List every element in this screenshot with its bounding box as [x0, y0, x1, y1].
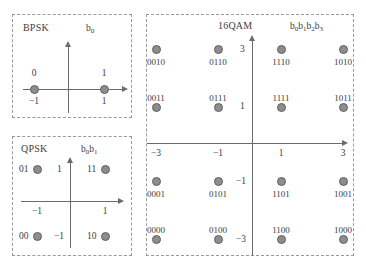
qam16-point-0110	[214, 45, 223, 54]
qam16-point-0111-symbol: 0111	[209, 94, 226, 103]
bpsk-bit-mapping-index: 0	[91, 27, 95, 35]
qam16-point-1100	[277, 235, 286, 244]
qam16-point-1000-symbol: 1000	[334, 226, 352, 235]
bpsk-constellation-panel: BPSK b0 0 −1 1 1	[12, 14, 132, 118]
qpsk-y-axis-arrow	[67, 157, 73, 163]
qam16-y-axis-arrow	[249, 35, 255, 41]
qpsk-x-tick-plus1: 1	[103, 207, 108, 217]
bpsk-point-minus1	[30, 85, 39, 94]
qam16-point-1111	[277, 103, 286, 112]
qam16-point-1001	[339, 177, 348, 186]
qpsk-x-tick-minus1: −1	[32, 207, 42, 217]
qam16-point-1011	[339, 103, 348, 112]
qam16-point-1100-symbol: 1100	[272, 226, 290, 235]
qam16-bit-mapping-index-3: 3	[320, 25, 324, 33]
qam16-point-0101-symbol: 0101	[209, 190, 227, 199]
qam16-point-1001-symbol: 1001	[334, 190, 352, 199]
bpsk-y-axis-arrow	[65, 41, 71, 47]
qam16-constellation-panel: 16QAM b0b1b2b3 −3 −1 1 3 3 1 −1 −3 0010 …	[146, 14, 354, 256]
qpsk-y-axis-line	[70, 163, 71, 248]
qam16-y-tick-plus3: 3	[240, 45, 245, 55]
bpsk-x-axis-arrow	[122, 86, 128, 92]
qam16-x-tick-plus1: 1	[279, 149, 284, 159]
qam16-point-0111	[214, 103, 223, 112]
qpsk-point-11	[101, 165, 110, 174]
qam16-point-1110-symbol: 1110	[272, 58, 289, 67]
qpsk-bit-mapping-index-1: 1	[94, 148, 98, 156]
qam16-y-tick-minus3: −3	[236, 235, 246, 245]
bpsk-point-plus1-symbol: 1	[102, 69, 107, 79]
qam16-point-0010	[152, 45, 161, 54]
bpsk-point-minus1-symbol: 0	[32, 69, 37, 79]
qpsk-y-tick-plus1: 1	[57, 165, 62, 175]
qam16-bit-mapping-label: b0b1b2b3	[290, 21, 323, 31]
qam16-point-1110	[277, 45, 286, 54]
qam16-point-0000-symbol: 0000	[147, 226, 165, 235]
qpsk-point-10	[101, 232, 110, 241]
qpsk-x-axis-arrow	[118, 198, 124, 204]
bpsk-panel-title: BPSK	[23, 22, 49, 33]
qpsk-point-00	[33, 232, 42, 241]
qam16-bit-mapping-base-3: b	[315, 21, 320, 31]
qam16-y-tick-minus1: −1	[236, 177, 246, 187]
qam16-point-0110-symbol: 0110	[209, 58, 227, 67]
qam16-panel-title: 16QAM	[218, 20, 252, 31]
qam16-x-axis-line	[147, 143, 343, 144]
qam16-point-1101	[277, 177, 286, 186]
qpsk-y-tick-minus1: −1	[54, 232, 64, 242]
qam16-point-0001-symbol: 0001	[147, 190, 165, 199]
qpsk-point-00-symbol: 00	[19, 232, 29, 242]
qpsk-constellation-panel: QPSK b0b1 −1 1 1 −1 01 11 00 10	[12, 136, 132, 256]
qam16-x-tick-minus3: −3	[151, 149, 161, 159]
qam16-y-axis-line	[252, 41, 253, 256]
qpsk-bit-mapping-index-0: 0	[86, 148, 90, 156]
qam16-point-0101	[214, 177, 223, 186]
bpsk-x-tick-plus1: 1	[102, 97, 107, 107]
qam16-x-tick-plus3: 3	[341, 149, 346, 159]
bpsk-point-plus1	[100, 85, 109, 94]
qpsk-point-01	[33, 165, 42, 174]
qpsk-bit-mapping-label: b0b1	[81, 144, 98, 154]
qam16-point-1011-symbol: 1011	[334, 94, 352, 103]
qam16-point-1101-symbol: 1101	[272, 190, 290, 199]
qam16-point-1111-symbol: 1111	[273, 94, 290, 103]
bpsk-y-axis-line	[68, 47, 69, 113]
qam16-x-tick-minus1: −1	[213, 149, 223, 159]
qam16-point-0000	[152, 235, 161, 244]
qam16-point-0100-symbol: 0100	[209, 226, 227, 235]
qpsk-panel-title: QPSK	[21, 143, 47, 154]
qam16-point-1000	[339, 235, 348, 244]
qpsk-point-01-symbol: 01	[19, 165, 29, 175]
qam16-bit-mapping-index-1: 1	[303, 25, 307, 33]
qpsk-point-11-symbol: 11	[87, 165, 96, 175]
qam16-point-1010	[339, 45, 348, 54]
qam16-y-tick-plus1: 1	[240, 102, 245, 112]
qam16-point-0100	[214, 235, 223, 244]
qam16-point-1010-symbol: 1010	[334, 58, 352, 67]
qam16-point-0011	[152, 103, 161, 112]
qam16-point-0001	[152, 177, 161, 186]
qam16-bit-mapping-index-2: 2	[311, 25, 315, 33]
qam16-point-0011-symbol: 0011	[147, 94, 165, 103]
bpsk-x-tick-minus1: −1	[29, 97, 39, 107]
bpsk-bit-mapping-label: b0	[86, 23, 94, 33]
qam16-x-axis-arrow	[342, 140, 348, 146]
qpsk-point-10-symbol: 10	[87, 232, 97, 242]
qam16-point-0010-symbol: 0010	[147, 58, 165, 67]
qam16-bit-mapping-index-0: 0	[295, 25, 299, 33]
